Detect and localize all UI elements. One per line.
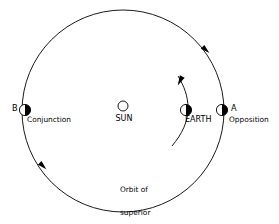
planet-a-label: A — [231, 104, 237, 113]
planet-b-marker — [19, 104, 30, 115]
sun-label: SUN — [110, 115, 138, 123]
orbit-direction-arrow-lower-left — [38, 161, 48, 171]
orbit-caption-line-1: Orbit of — [120, 186, 150, 194]
opposition-label: Opposition — [229, 116, 269, 124]
earth-marker — [180, 104, 191, 115]
orbit-diagram: B A Conjunction Opposition SUN EARTH Orb… — [0, 0, 279, 224]
orbit-caption: Orbit of superior planet — [120, 170, 150, 224]
orbit-caption-line-2: superior — [120, 209, 150, 217]
earth-label: EARTH — [185, 116, 211, 124]
planet-a-marker — [216, 104, 227, 115]
earth-orbit-direction-arrow — [175, 75, 184, 86]
conjunction-label: Conjunction — [27, 116, 71, 124]
sun-open-circle-icon — [118, 101, 128, 111]
planet-b-label: B — [12, 104, 18, 113]
